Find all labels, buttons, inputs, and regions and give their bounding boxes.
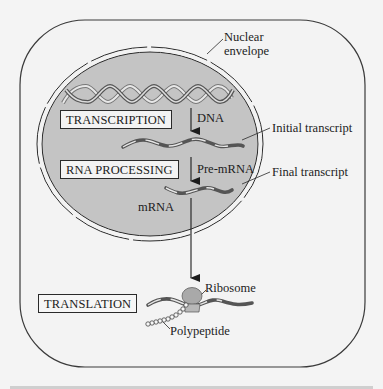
ribosome-label: Ribosome xyxy=(205,281,256,295)
nuclear-envelope-label: Nuclear envelope xyxy=(224,30,269,58)
stage-transcription-label: TRANSCRIPTION xyxy=(60,110,172,129)
initial-transcript-label: Initial transcript xyxy=(272,121,352,135)
nuclear-envelope-label-line1: Nuclear xyxy=(224,30,269,44)
polypeptide-label: Polypeptide xyxy=(170,324,230,338)
stage-rna-processing-label: RNA PROCESSING xyxy=(60,160,179,179)
mrna-label: mRNA xyxy=(138,200,174,214)
pre-mrna-label: Pre-mRNA xyxy=(197,162,254,176)
nuclear-envelope-label-line2: envelope xyxy=(224,44,269,58)
dna-label: DNA xyxy=(197,111,224,125)
gene-expression-diagram: TRANSCRIPTION RNA PROCESSING TRANSLATION… xyxy=(0,0,383,389)
stage-translation-label: TRANSLATION xyxy=(38,294,137,313)
final-transcript-label: Final transcript xyxy=(272,165,348,179)
